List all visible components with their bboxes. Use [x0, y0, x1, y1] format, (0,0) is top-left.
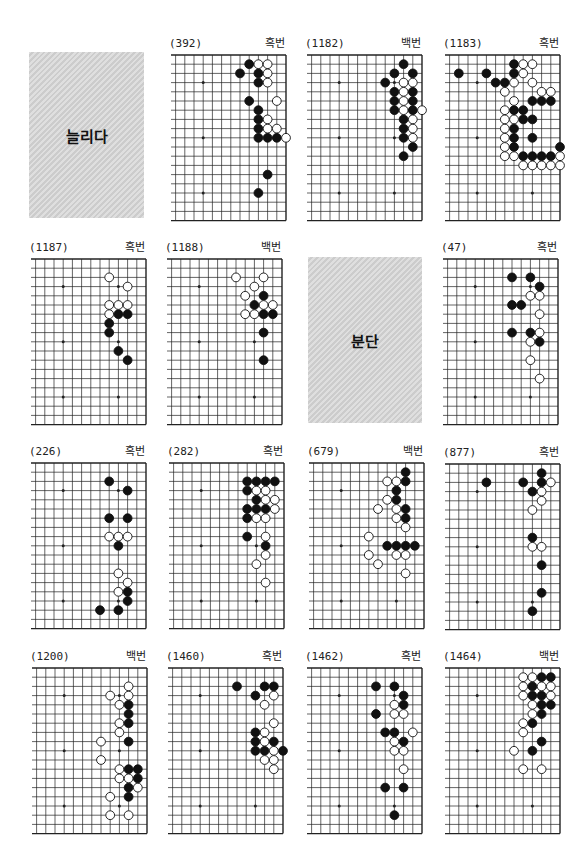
black-stone [254, 78, 263, 87]
white-stone [123, 578, 132, 587]
star-point [340, 544, 343, 547]
star-point [62, 285, 65, 288]
star-point [476, 192, 479, 195]
white-stone [123, 532, 132, 541]
white-stone [528, 78, 537, 87]
star-point [63, 749, 66, 752]
turn-indicator: 백번 [363, 442, 423, 458]
black-stone [390, 682, 399, 691]
white-stone [115, 719, 124, 728]
white-stone [250, 310, 259, 319]
white-stone [392, 505, 401, 514]
star-point [393, 694, 396, 697]
black-stone [123, 310, 132, 319]
turn-indicator: 흑번 [497, 238, 557, 254]
star-point [200, 600, 203, 603]
black-stone [105, 477, 114, 486]
star-point [474, 285, 477, 288]
white-stone [269, 765, 278, 774]
white-stone [124, 774, 133, 783]
white-stone [401, 569, 410, 578]
problem-number: (1188) [165, 241, 205, 254]
go-board [444, 667, 561, 835]
white-stone [401, 523, 410, 532]
problem-number: (47) [441, 241, 468, 254]
white-stone [519, 719, 528, 728]
white-stone [260, 737, 269, 746]
star-point [338, 694, 341, 697]
white-stone [259, 273, 268, 282]
star-point [476, 805, 479, 808]
black-stone [390, 106, 399, 115]
go-board [444, 463, 561, 631]
black-stone [269, 682, 278, 691]
black-stone [124, 710, 133, 719]
black-stone [390, 811, 399, 820]
black-stone [251, 728, 260, 737]
black-stone [124, 783, 133, 792]
problem-number: (282) [167, 445, 200, 458]
black-stone [528, 682, 537, 691]
black-stone [270, 477, 279, 486]
black-stone [252, 495, 261, 504]
white-stone [260, 700, 269, 709]
white-stone [232, 273, 241, 282]
black-stone [537, 691, 546, 700]
black-stone [251, 746, 260, 755]
black-stone [491, 78, 500, 87]
go-board [166, 258, 283, 426]
black-stone [243, 505, 252, 514]
star-point [199, 749, 202, 752]
section-title: 분단 [351, 330, 379, 351]
star-point [476, 545, 479, 548]
white-stone [97, 737, 106, 746]
black-stone [399, 124, 408, 133]
white-stone [510, 97, 519, 106]
white-stone [282, 133, 291, 142]
black-stone [123, 597, 132, 606]
star-point [531, 601, 534, 604]
black-stone [537, 469, 546, 478]
black-stone [269, 737, 278, 746]
white-stone [124, 682, 133, 691]
black-stone [519, 106, 528, 115]
white-stone [261, 532, 270, 541]
black-stone [401, 541, 410, 550]
black-stone [390, 69, 399, 78]
white-stone [270, 505, 279, 514]
black-stone [279, 746, 288, 755]
white-stone [500, 133, 509, 142]
black-stone [133, 765, 142, 774]
black-stone [408, 97, 417, 106]
white-stone [399, 106, 408, 115]
white-stone [263, 60, 272, 69]
go-board [167, 667, 284, 835]
black-stone [254, 124, 263, 133]
go-board [306, 667, 423, 835]
white-stone [272, 97, 281, 106]
black-stone [251, 737, 260, 746]
black-stone [519, 478, 528, 487]
star-point [198, 285, 201, 288]
white-stone [535, 328, 544, 337]
star-point [62, 396, 65, 399]
white-stone [115, 765, 124, 774]
problem-number: (392) [169, 37, 202, 50]
star-point [340, 489, 343, 492]
white-stone [105, 301, 114, 310]
star-point [117, 396, 120, 399]
black-stone [482, 69, 491, 78]
black-stone [399, 133, 408, 142]
black-stone [482, 478, 491, 487]
black-stone [243, 514, 252, 523]
black-stone [510, 143, 519, 152]
problem-number: (1462) [305, 650, 345, 663]
go-board [308, 462, 425, 630]
star-point [63, 805, 66, 808]
white-stone [272, 124, 281, 133]
white-stone [399, 765, 408, 774]
black-stone [537, 561, 546, 570]
black-stone [124, 765, 133, 774]
black-stone [96, 606, 105, 615]
white-stone [528, 710, 537, 719]
